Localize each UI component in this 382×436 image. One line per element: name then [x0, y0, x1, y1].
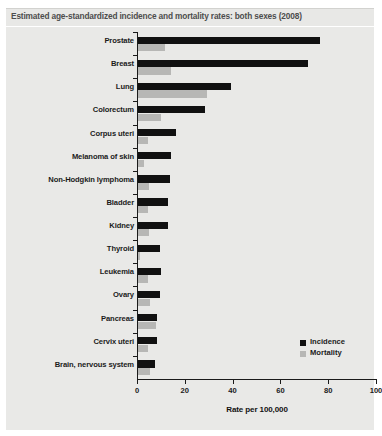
category-label: Ovary	[10, 290, 134, 299]
y-axis-tick	[133, 171, 138, 172]
legend-label: Mortality	[310, 348, 342, 357]
bar-incidence	[138, 83, 231, 90]
y-axis-tick	[133, 55, 138, 56]
y-axis-tick	[133, 310, 138, 311]
category-label: Lung	[10, 82, 134, 91]
category-label: Bladder	[10, 198, 134, 207]
bar-row: Ovary	[6, 286, 374, 309]
bar-mortality	[138, 299, 150, 306]
chart-panel: ProstateBreastLungColorectumCorpus uteri…	[6, 27, 374, 430]
page-title: Estimated age-standardized incidence and…	[11, 11, 302, 21]
bar-mortality	[138, 67, 171, 74]
bar-row: Brain, nervous system	[6, 356, 374, 379]
bar-mortality	[138, 252, 140, 259]
x-axis-tick	[233, 379, 234, 384]
bar-row: Kidney	[6, 217, 374, 240]
y-axis-tick	[133, 101, 138, 102]
bar-incidence	[138, 245, 160, 252]
x-axis-tick-label: 100	[370, 386, 382, 395]
x-axis-tick	[137, 379, 138, 384]
y-axis-tick	[133, 32, 138, 33]
bar-row: Non-Hodgkin lymphoma	[6, 171, 374, 194]
category-label: Colorectum	[10, 105, 134, 114]
x-axis-tick-label: 80	[324, 386, 332, 395]
bar-row: Melanoma of skin	[6, 148, 374, 171]
category-label: Cervix uteri	[10, 337, 134, 346]
bar-row: Breast	[6, 55, 374, 78]
legend-swatch-icon	[300, 351, 306, 357]
bar-mortality	[138, 275, 148, 282]
x-axis-title: Rate per 100,000	[137, 405, 377, 414]
bar-mortality	[138, 90, 207, 97]
bar-row: Colorectum	[6, 101, 374, 124]
bar-incidence	[138, 291, 160, 298]
y-axis-tick	[133, 240, 138, 241]
category-label: Pancreas	[10, 314, 134, 323]
bar-mortality	[138, 368, 150, 375]
bar-row: Lung	[6, 78, 374, 101]
bar-incidence	[138, 152, 171, 159]
category-label: Thyroid	[10, 244, 134, 253]
bar-row: Pancreas	[6, 310, 374, 333]
x-axis-tick-label: 40	[228, 386, 236, 395]
y-axis-tick	[133, 194, 138, 195]
bar-incidence	[138, 360, 155, 367]
bar-mortality	[138, 44, 165, 51]
bar-mortality	[138, 206, 148, 213]
bar-incidence	[138, 106, 205, 113]
bar-mortality	[138, 229, 149, 236]
bar-row: Bladder	[6, 194, 374, 217]
bar-incidence	[138, 337, 157, 344]
bar-mortality	[138, 160, 144, 167]
category-label: Kidney	[10, 221, 134, 230]
y-axis-tick	[133, 217, 138, 218]
bar-mortality	[138, 114, 161, 121]
x-axis-tick-label: 20	[181, 386, 189, 395]
chart-title-bar: Estimated age-standardized incidence and…	[6, 8, 374, 26]
bar-incidence	[138, 198, 168, 205]
bar-row: Leukemia	[6, 263, 374, 286]
bar-row: Corpus uteri	[6, 125, 374, 148]
bar-incidence	[138, 60, 308, 67]
legend-label: Incidence	[310, 337, 345, 346]
x-axis-tick-label: 0	[135, 386, 139, 395]
category-label: Brain, nervous system	[10, 360, 134, 369]
bar-mortality	[138, 345, 148, 352]
y-axis-tick	[133, 148, 138, 149]
y-axis-tick	[133, 333, 138, 334]
bar-rows: ProstateBreastLungColorectumCorpus uteri…	[6, 32, 374, 379]
bar-mortality	[138, 137, 148, 144]
x-axis-tick	[376, 379, 377, 384]
y-axis-tick	[133, 356, 138, 357]
bar-row: Thyroid	[6, 240, 374, 263]
x-axis-tick	[328, 379, 329, 384]
category-label: Non-Hodgkin lymphoma	[10, 175, 134, 184]
bar-incidence	[138, 175, 170, 182]
category-label: Leukemia	[10, 267, 134, 276]
category-label: Corpus uteri	[10, 129, 134, 138]
y-axis-tick	[133, 78, 138, 79]
bar-row: Prostate	[6, 32, 374, 55]
category-label: Melanoma of skin	[10, 152, 134, 161]
x-axis-ticks: 020406080100	[137, 379, 377, 399]
bar-incidence	[138, 222, 168, 229]
bar-mortality	[138, 183, 149, 190]
bar-mortality	[138, 322, 156, 329]
category-label: Prostate	[10, 36, 134, 45]
category-label: Breast	[10, 59, 134, 68]
y-axis-tick	[133, 263, 138, 264]
x-axis-tick	[185, 379, 186, 384]
bar-incidence	[138, 129, 176, 136]
x-axis-tick	[280, 379, 281, 384]
legend-swatch-icon	[300, 340, 306, 346]
bar-incidence	[138, 268, 161, 275]
bar-incidence	[138, 37, 320, 44]
y-axis-tick	[133, 286, 138, 287]
y-axis-tick	[133, 125, 138, 126]
bar-incidence	[138, 314, 157, 321]
x-axis-tick-label: 60	[276, 386, 284, 395]
